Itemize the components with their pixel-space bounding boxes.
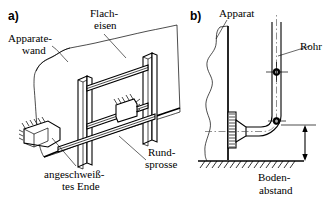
label-round-rung-line2: sprosse xyxy=(145,158,178,170)
label-flat-iron-line1: Flach- xyxy=(90,7,118,19)
wall-break-line xyxy=(205,26,228,161)
nozzle-taper xyxy=(236,120,246,142)
label-apparatus-wall-line2: wand xyxy=(22,44,46,56)
panel-b-leaders xyxy=(216,20,310,56)
label-round-rung-line1: Rund- xyxy=(148,146,176,158)
leader-round-rung xyxy=(119,136,146,160)
dim-arrowhead-top xyxy=(302,125,307,132)
label-floor-clearance-line1: Boden- xyxy=(258,171,291,183)
label-flat-iron-line2: eisen xyxy=(94,19,117,31)
ground xyxy=(198,161,304,168)
label-welded-end-line1: angeschweiß- xyxy=(44,168,105,180)
pipe-assembly xyxy=(205,14,281,136)
label-pipe: Rohr xyxy=(300,40,322,52)
dim-arrowhead-bottom xyxy=(302,154,307,161)
pipe-outer-upper xyxy=(246,22,272,127)
panel-a: a) xyxy=(8,7,180,192)
label-apparatus: Apparat xyxy=(219,7,254,19)
leader-apparatus xyxy=(216,20,227,39)
apparatus-wall-b xyxy=(205,26,228,161)
technical-figure: a) xyxy=(0,0,332,201)
panel-a-id: a) xyxy=(8,9,19,23)
nozzle-plate xyxy=(228,112,236,148)
weld-mark-upper xyxy=(266,62,288,82)
panel-b: b) xyxy=(190,7,322,196)
panel-b-id: b) xyxy=(190,9,201,23)
panel-b-labels: Apparat Rohr Boden- abstand xyxy=(219,7,322,196)
dimension-floor-clearance xyxy=(281,125,316,161)
wall-nozzle xyxy=(228,112,246,148)
label-welded-end-line2: tes Ende xyxy=(62,180,100,192)
label-apparatus-wall-line1: Apparate- xyxy=(8,32,52,44)
label-floor-clearance-line2: abstand xyxy=(259,184,293,196)
ground-hatching xyxy=(200,161,295,168)
